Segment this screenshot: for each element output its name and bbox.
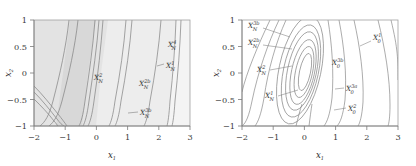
left-x-ticklabels: −2 −1 0 1 2 3 [28, 132, 193, 142]
left-shaded-regions [34, 20, 190, 126]
right-x-axis-title: x1 [316, 150, 324, 161]
right-y-axis-title: x2 [211, 69, 222, 77]
right-x-ticklabels: −2 −1 0 1 2 3 [236, 132, 401, 142]
svg-text:−0.5: −0.5 [7, 95, 27, 105]
left-y-axis-title: x2 [3, 69, 14, 77]
svg-text:2: 2 [156, 132, 161, 142]
right-panel-plot: 1 0.5 0 −0.5 −1 −2 −1 0 1 2 3 x1 x2 X3bN [208, 0, 416, 166]
svg-text:−1: −1 [267, 132, 279, 142]
svg-text:2: 2 [364, 132, 369, 142]
panel-left: 1 0.5 0 −0.5 −1 −2 −1 0 1 2 3 x1 x2 X4N [0, 0, 208, 166]
svg-text:1: 1 [125, 132, 130, 142]
figure-contour-pair: 1 0.5 0 −0.5 −1 −2 −1 0 1 2 3 x1 x2 X4N [0, 0, 416, 166]
svg-text:−1: −1 [15, 121, 27, 131]
left-y-axis [30, 20, 34, 126]
left-panel-plot: 1 0.5 0 −0.5 −1 −2 −1 0 1 2 3 x1 x2 X4N [0, 0, 208, 166]
svg-text:0: 0 [94, 132, 99, 142]
svg-text:0.5: 0.5 [222, 42, 235, 52]
svg-text:−1: −1 [223, 121, 235, 131]
svg-text:0.5: 0.5 [14, 42, 27, 52]
left-x-axis [34, 126, 190, 130]
svg-text:1: 1 [333, 132, 338, 142]
right-x-axis [242, 126, 398, 130]
svg-text:−1: −1 [59, 132, 71, 142]
svg-text:3: 3 [395, 132, 400, 142]
right-y-axis [238, 20, 242, 126]
svg-text:−2: −2 [28, 132, 40, 142]
svg-text:0: 0 [302, 132, 307, 142]
svg-text:1: 1 [230, 15, 235, 25]
left-x-axis-title: x1 [108, 150, 116, 161]
svg-text:0: 0 [230, 68, 235, 78]
svg-text:3: 3 [187, 132, 192, 142]
svg-text:0: 0 [22, 68, 27, 78]
panel-right: 1 0.5 0 −0.5 −1 −2 −1 0 1 2 3 x1 x2 X3bN [208, 0, 416, 166]
svg-text:−0.5: −0.5 [215, 95, 235, 105]
svg-text:1: 1 [22, 15, 27, 25]
svg-text:−2: −2 [236, 132, 248, 142]
